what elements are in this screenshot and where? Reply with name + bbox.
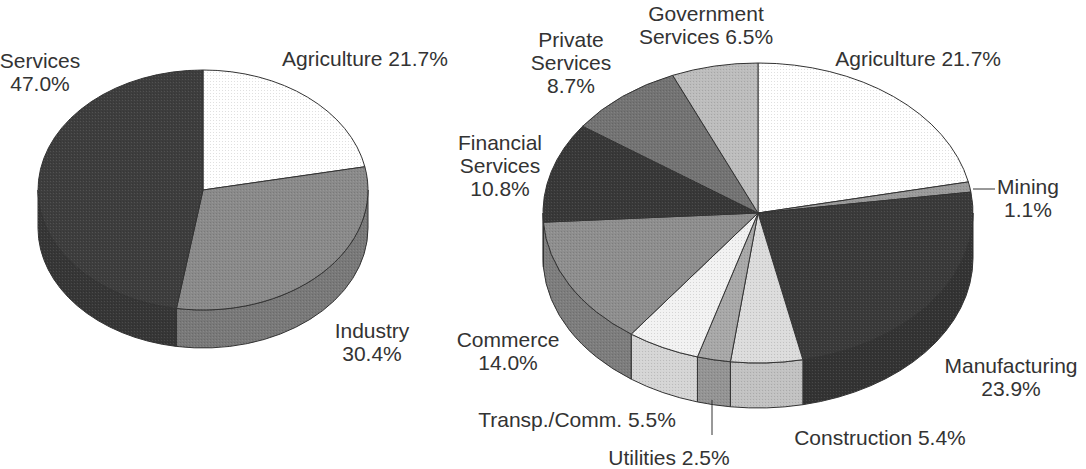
slice-label-agriculture: Agriculture 21.7% — [282, 47, 448, 70]
slice-label-line: Commerce — [457, 328, 560, 351]
slice-label-line: 1.1% — [1004, 198, 1052, 221]
slice-side-texture — [730, 360, 802, 408]
slice-side-texture — [697, 357, 730, 407]
slice-label-line: 10.8% — [470, 177, 530, 200]
slice-label-line: Construction 5.4% — [794, 426, 966, 449]
slice-label-line: Agriculture 21.7% — [835, 47, 1001, 70]
slice-label-private-services: PrivateServices8.7% — [531, 28, 612, 97]
slice-label-mining: Mining1.1% — [997, 175, 1059, 221]
slice-label-line: Financial — [458, 131, 542, 154]
slice-label-manufacturing: Manufacturing23.9% — [944, 354, 1077, 400]
slice-label-line: Manufacturing — [944, 354, 1077, 377]
slice-label-utilities: Utilities 2.5% — [608, 446, 729, 469]
slice-label-line: 8.7% — [547, 74, 595, 97]
pie-chart-sectors — [38, 70, 368, 348]
slice-label-line: Services 6.5% — [639, 25, 773, 48]
slice-label-line: 30.4% — [342, 342, 402, 365]
slice-label-line: Industry — [335, 319, 410, 342]
pie-charts: Agriculture 21.7%Industry30.4%Services47… — [0, 0, 1086, 469]
slice-label-line: 47.0% — [10, 72, 70, 95]
slice-label-line: 23.9% — [981, 377, 1041, 400]
slice-label-line: Mining — [997, 175, 1059, 198]
slice-label-line: Services — [460, 154, 541, 177]
slice-label-industry: Industry30.4% — [335, 319, 410, 365]
slice-label-line: Private — [538, 28, 603, 51]
slice-label-government-services: GovernmentServices 6.5% — [639, 2, 773, 48]
slice-label-line: 14.0% — [478, 351, 538, 374]
slice-label-line: Services — [0, 49, 80, 72]
slice-label-line: Agriculture 21.7% — [282, 47, 448, 70]
slice-label-line: Government — [648, 2, 764, 25]
slice-label-line: Transp./Comm. 5.5% — [478, 408, 676, 431]
slice-label-services: Services47.0% — [0, 49, 80, 95]
slice-label-commerce: Commerce14.0% — [457, 328, 560, 374]
pie-chart-sectors-economy — [543, 63, 973, 408]
slice-label-financial-services: FinancialServices10.8% — [458, 131, 542, 200]
slice-label-line: Utilities 2.5% — [608, 446, 729, 469]
slice-label-transp-comm: Transp./Comm. 5.5% — [478, 408, 676, 431]
slice-label-construction: Construction 5.4% — [794, 426, 966, 449]
slice-label-line: Services — [531, 51, 612, 74]
slice-label-agriculture: Agriculture 21.7% — [835, 47, 1001, 70]
